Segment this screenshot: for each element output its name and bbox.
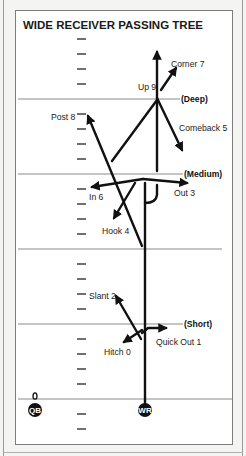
qb-marker: QB	[28, 393, 42, 417]
label-out-3: Out 3	[174, 188, 195, 198]
zone-label-medium: (Medium)	[184, 169, 222, 179]
route-deep-cross	[112, 100, 157, 161]
label-hitch-0: Hitch 0	[104, 347, 131, 357]
route-curl	[145, 185, 157, 203]
hash-marks	[77, 39, 86, 429]
zone-label-deep: (Deep)	[181, 94, 208, 104]
label-hook-4: Hook 4	[102, 226, 129, 236]
route-out-3	[143, 179, 187, 183]
passing-tree-diagram: WIDE RECEIVER PASSING TREE (Deep) (Mediu…	[0, 0, 246, 456]
label-comeback-5: Comeback 5	[179, 123, 227, 133]
qb-label: QB	[29, 406, 41, 415]
route-corner-7	[161, 68, 176, 90]
wr-label: WR	[138, 406, 152, 415]
label-corner-7: Corner 7	[171, 59, 205, 69]
label-slant-2: Slant 2	[89, 291, 116, 301]
label-post-8: Post 8	[51, 112, 76, 122]
label-quick-out-1: Quick Out 1	[156, 337, 202, 347]
diagram-title: WIDE RECEIVER PASSING TREE	[23, 19, 203, 31]
label-up-9: Up 9	[138, 82, 156, 92]
zone-label-short: (Short)	[184, 319, 212, 329]
label-in-6: In 6	[89, 192, 104, 202]
qb-ball-icon	[33, 393, 37, 399]
wr-marker: WR	[138, 403, 152, 417]
